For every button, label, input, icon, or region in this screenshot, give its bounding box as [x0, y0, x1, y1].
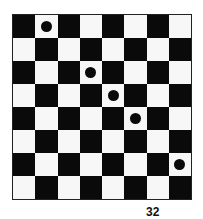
board-square: [58, 153, 80, 176]
board-square: [147, 176, 169, 199]
board-square: [102, 176, 124, 199]
board-square: [102, 15, 124, 38]
board-square: [13, 130, 35, 153]
board-square: [147, 61, 169, 84]
board-square: [169, 84, 191, 107]
board-square: [80, 107, 102, 130]
board-square: [169, 176, 191, 199]
board-square: [35, 130, 57, 153]
board-square: [58, 176, 80, 199]
board-square: [35, 38, 57, 61]
board-square: [102, 153, 124, 176]
board-square: [124, 130, 146, 153]
disc-icon: [85, 67, 96, 78]
disc-icon: [174, 159, 185, 170]
board-square: [169, 130, 191, 153]
board-square: [102, 61, 124, 84]
board-square: [80, 130, 102, 153]
board-square: [169, 153, 191, 176]
board-square: [13, 153, 35, 176]
board-square: [80, 61, 102, 84]
board-square: [102, 84, 124, 107]
board-square: [124, 38, 146, 61]
board-square: [58, 107, 80, 130]
board-square: [124, 61, 146, 84]
board-square: [13, 38, 35, 61]
board-square: [102, 107, 124, 130]
board-square: [169, 61, 191, 84]
board-square: [124, 107, 146, 130]
board-square: [58, 15, 80, 38]
disc-icon: [108, 90, 119, 101]
board-square: [35, 176, 57, 199]
board-square: [35, 107, 57, 130]
board-square: [147, 107, 169, 130]
board-square: [35, 84, 57, 107]
board-square: [58, 130, 80, 153]
disc-icon: [130, 113, 141, 124]
board-square: [13, 15, 35, 38]
page-number: 32: [146, 205, 159, 219]
checkerboard: [12, 14, 192, 200]
board-square: [169, 15, 191, 38]
board-square: [58, 84, 80, 107]
board-square: [124, 153, 146, 176]
board-square: [80, 38, 102, 61]
board-square: [147, 84, 169, 107]
board-square: [58, 38, 80, 61]
board-square: [102, 130, 124, 153]
board-square: [147, 153, 169, 176]
board-square: [58, 61, 80, 84]
board-square: [13, 176, 35, 199]
board-square: [80, 84, 102, 107]
board-square: [35, 15, 57, 38]
board-square: [169, 38, 191, 61]
board-square: [80, 153, 102, 176]
board-square: [35, 153, 57, 176]
board-square: [13, 84, 35, 107]
board-square: [124, 84, 146, 107]
board-square: [147, 15, 169, 38]
board-square: [13, 107, 35, 130]
disc-icon: [41, 21, 52, 32]
board-square: [124, 176, 146, 199]
board-square: [169, 107, 191, 130]
board-square: [102, 38, 124, 61]
board-square: [35, 61, 57, 84]
board-square: [80, 15, 102, 38]
board-square: [147, 130, 169, 153]
board-square: [124, 15, 146, 38]
board-square: [13, 61, 35, 84]
board-square: [147, 38, 169, 61]
board-square: [80, 176, 102, 199]
